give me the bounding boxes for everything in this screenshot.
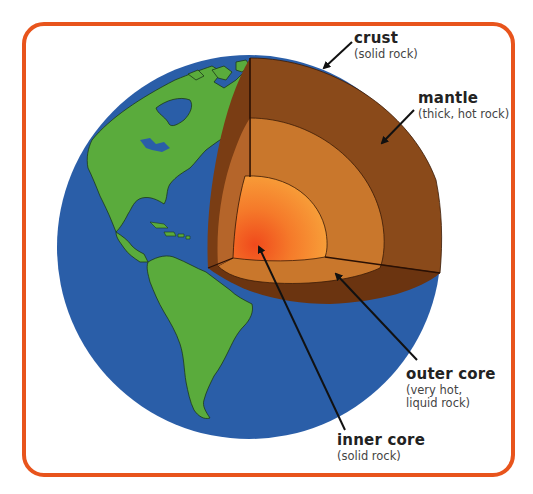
crust-arrow bbox=[324, 42, 352, 68]
outer-core-label-title: outer core bbox=[406, 367, 496, 382]
inner-core-label-subtitle: (solid rock) bbox=[337, 450, 425, 463]
outer-core-label: outer core (very hot, liquid rock) bbox=[406, 367, 496, 410]
mantle-label: mantle (thick, hot rock) bbox=[418, 91, 509, 121]
mantle-label-subtitle: (thick, hot rock) bbox=[418, 108, 509, 121]
inner-core-label-title: inner core bbox=[337, 433, 425, 448]
earth-cutaway-illustration bbox=[0, 0, 533, 494]
crust-label-title: crust bbox=[354, 31, 418, 46]
crust-label: crust (solid rock) bbox=[354, 31, 418, 61]
crust-label-subtitle: (solid rock) bbox=[354, 48, 418, 61]
outer-core-label-subtitle: (very hot, liquid rock) bbox=[406, 384, 496, 410]
mantle-label-title: mantle bbox=[418, 91, 509, 106]
inner-core-label: inner core (solid rock) bbox=[337, 433, 425, 463]
